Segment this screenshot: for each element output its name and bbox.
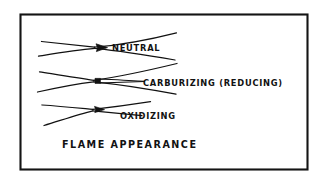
- figure-canvas: NEUTRAL CARBURIZING (REDUCING): [0, 0, 327, 182]
- carburizing-inner-cone: [95, 78, 100, 83]
- flame-label-carburizing: CARBURIZING (REDUCING): [143, 78, 283, 88]
- figure-caption: FLAME APPEARANCE: [62, 139, 197, 150]
- flame-label-neutral: NEUTRAL: [112, 43, 160, 53]
- paper-background: [0, 0, 327, 182]
- flame-appearance-figure: NEUTRAL CARBURIZING (REDUCING): [0, 0, 327, 182]
- flame-label-oxidizing: OXIDIZING: [120, 111, 176, 121]
